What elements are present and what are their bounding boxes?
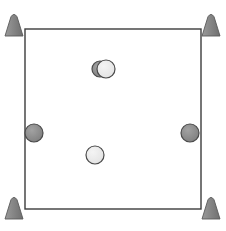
arena-boundary-group — [25, 29, 201, 209]
scene-canvas — [0, 0, 226, 231]
square-boundary — [25, 29, 201, 209]
puck-dark-left-edge[interactable] — [25, 124, 43, 142]
arena-overhead-view — [0, 0, 226, 231]
puck-light-lower-center[interactable] — [86, 146, 104, 164]
puck-dark-right-edge[interactable] — [181, 124, 199, 142]
puck-light-upper-center[interactable] — [97, 60, 115, 78]
